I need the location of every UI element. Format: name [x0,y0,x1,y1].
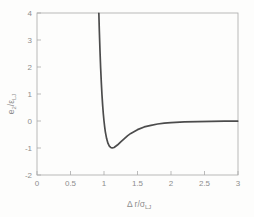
x-tick-label: 2 [158,179,184,188]
x-tick-label: 1 [91,179,117,188]
y-tick-label: -1 [0,144,32,153]
x-axis-label-subscript: LJ [145,204,151,210]
y-tick-label: 0 [0,117,32,126]
y-tick-label: 4 [0,9,32,18]
x-tick-label: 0 [24,179,50,188]
x-tick-label: 3 [225,179,251,188]
y-tick-label: 3 [0,36,32,45]
x-tick-label: 0.5 [58,179,84,188]
plot-frame [37,13,238,175]
lj-potential-figure: 43210-1-2 00.511.522.53 Δ r/σLJ e2/εLJ [0,0,254,217]
x-axis-label-main: Δ r/σ [127,199,145,209]
y-tick-label: 2 [0,63,32,72]
y-axis-label-mid: /ε [6,100,16,106]
y-axis-label: e2/εLJ [6,94,17,115]
y-axis-label-base-subscript: 2 [11,106,17,109]
x-tick-label: 1.5 [125,179,151,188]
lj-curve [99,13,238,148]
x-axis-label: Δ r/σLJ [127,199,151,210]
axis-ticks [37,13,238,175]
x-tick-label: 2.5 [192,179,218,188]
y-axis-label-base: e [6,110,16,115]
y-axis-label-mid-subscript: LJ [11,94,17,100]
